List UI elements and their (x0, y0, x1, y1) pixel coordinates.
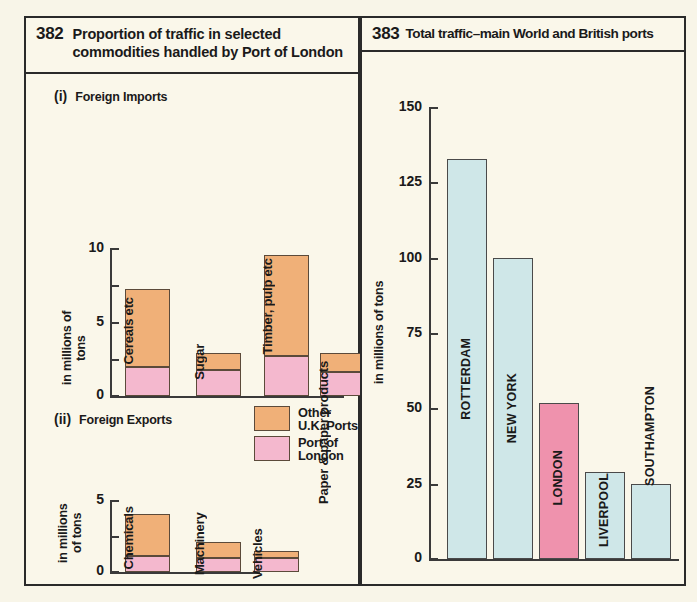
total-traffic-tick-25 (429, 484, 438, 486)
figure-page: 382 Proportion of traffic in selected co… (0, 0, 697, 602)
exports-tick-label-0: 0 (78, 565, 104, 575)
exports-tick-5 (110, 500, 119, 502)
exports-tick-0 (110, 571, 119, 573)
total-traffic-tick-50 (429, 408, 438, 410)
chart-total-traffic: in millions of tons 150 125 100 75 50 25… (362, 18, 688, 588)
bar-label-southampton: SOUTHAMPTON (643, 386, 657, 486)
exports-tick-2p5 (110, 536, 119, 538)
total-traffic-x-axis (429, 559, 679, 561)
total-traffic-tick-125 (429, 182, 438, 184)
exports-tick-label-5: 5 (78, 494, 104, 504)
bar-label-rotterdam: ROTTERDAM (459, 338, 473, 420)
chart-foreign-exports: in millions of tons 5 0 Chemicals Machin… (26, 18, 362, 588)
panel-382: 382 Proportion of traffic in selected co… (24, 16, 360, 586)
bar-label-vehicles: Vehicles (250, 528, 265, 578)
total-traffic-tick-150 (429, 107, 438, 109)
total-traffic-tick-100 (429, 258, 438, 260)
exports-x-axis (110, 572, 260, 574)
bar-label-machinery: Machinery (192, 513, 207, 576)
bar-label-london: LONDON (551, 450, 565, 505)
bar-label-liverpool: LIVERPOOL (597, 473, 611, 547)
total-traffic-tick-label-150: 150 (380, 101, 422, 111)
total-traffic-tick-label-0: 0 (380, 552, 422, 562)
total-traffic-tick-label-25: 25 (380, 478, 422, 488)
bar-label-new-york: NEW YORK (505, 373, 519, 443)
total-traffic-tick-label-100: 100 (380, 252, 422, 262)
panel-383: 383 Total traffic–main World and British… (360, 16, 686, 586)
total-traffic-tick-label-125: 125 (380, 176, 422, 186)
total-traffic-tick-0 (429, 558, 438, 560)
total-traffic-tick-75 (429, 333, 438, 335)
bar-label-chemicals: Chemicals (121, 506, 136, 569)
bar-southampton[interactable] (631, 484, 671, 559)
total-traffic-tick-label-75: 75 (380, 327, 422, 337)
total-traffic-tick-label-50: 50 (380, 402, 422, 412)
